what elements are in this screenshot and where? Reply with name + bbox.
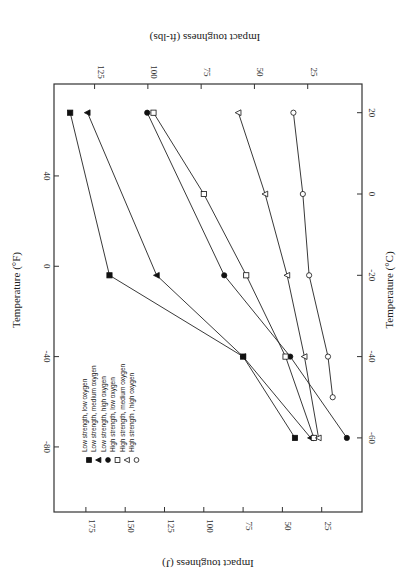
legend-label: High strength , high oxygen [128, 372, 136, 452]
tick-label-joules: 125 [166, 519, 176, 533]
marker-square-icon [283, 354, 288, 359]
y-axis-title-celsius: Temperature (°C) [383, 251, 396, 329]
marker-triangle-icon [235, 110, 241, 116]
tick-label-joules: 25 [323, 522, 333, 532]
tick-label-celsius: -60 [367, 432, 377, 444]
marker-circle-icon [222, 273, 227, 278]
tick-label-fahrenheit: -40 [42, 351, 52, 363]
marker-triangle-icon [124, 457, 129, 462]
marker-square-icon [87, 458, 92, 463]
tick-label-fahrenheit: 40 [42, 171, 52, 181]
tick-label-celsius: 20 [367, 108, 377, 118]
tick-label-joules: 150 [126, 519, 136, 533]
marker-triangle-icon [96, 457, 101, 462]
tick-label-ftlbs: 75 [202, 68, 212, 78]
marker-square-icon [107, 273, 112, 278]
marker-triangle-icon [154, 272, 160, 278]
tick-label-joules: 175 [87, 519, 97, 533]
tick-label-joules: 75 [244, 522, 254, 532]
marker-circle-icon [145, 110, 150, 115]
tick-label-celsius: 0 [367, 192, 377, 197]
marker-circle-icon [307, 273, 312, 278]
marker-circle-icon [291, 110, 296, 115]
y-axis-title-fahrenheit: Temperature (°F) [10, 252, 23, 328]
marker-square-icon [68, 110, 73, 115]
axis-ticks: 175150125100755025125100755025400-40-802… [42, 65, 377, 533]
x-axis-title-ftlbs: Impact toughness (ft-lbs) [149, 31, 260, 44]
tick-label-joules: 100 [205, 519, 215, 533]
marker-triangle-icon [84, 110, 90, 116]
x-axis-title-joules: Impact toughness (J) [162, 557, 254, 570]
tick-label-celsius: -40 [367, 351, 377, 363]
marker-circle-icon [325, 354, 330, 359]
tick-label-ftlbs: 25 [309, 68, 319, 78]
legend-label: High strength, low oxygen [109, 377, 117, 452]
marker-circle-icon [106, 458, 111, 463]
tick-label-ftlbs: 50 [255, 68, 265, 78]
marker-circle-icon [344, 435, 349, 440]
legend: Low strength, low oxygenLow strength, me… [81, 363, 139, 462]
legend-label: Low strength, high oxygen [100, 376, 108, 452]
marker-square-icon [151, 110, 156, 115]
tick-label-fahrenheit: -80 [42, 441, 52, 453]
series-4 [151, 110, 317, 440]
tick-label-joules: 50 [283, 522, 293, 532]
series-6 [291, 110, 336, 400]
legend-label: Low strength, low oxygen [81, 378, 89, 452]
legend-label: Low strength, medium oxygen [90, 365, 98, 452]
impact-toughness-chart: 175150125100755025125100755025400-40-802… [0, 0, 400, 584]
marker-circle-icon [300, 191, 305, 196]
marker-circle-icon [134, 458, 139, 463]
legend-label: High strength, medium oxygen [119, 363, 127, 452]
tick-label-ftlbs: 125 [96, 65, 106, 79]
tick-label-fahrenheit: 0 [42, 264, 52, 269]
marker-square-icon [292, 435, 297, 440]
tick-label-ftlbs: 100 [149, 65, 159, 79]
tick-label-celsius: -20 [367, 269, 377, 281]
marker-square-icon [115, 458, 120, 463]
marker-square-icon [201, 191, 206, 196]
marker-square-icon [244, 273, 249, 278]
marker-circle-icon [330, 395, 335, 400]
